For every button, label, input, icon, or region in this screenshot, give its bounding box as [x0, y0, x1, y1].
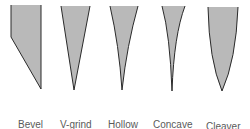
label-line1: Bevel	[18, 119, 43, 129]
label-line1: Hollow	[108, 119, 138, 129]
concave-grind-shape	[162, 6, 185, 91]
hollow-grind-label: Hollow grind	[108, 97, 138, 129]
label-line1: Concave	[153, 119, 192, 129]
label-line1: Cleaver	[206, 121, 240, 129]
bevel-grind-label: Bevel grind	[18, 97, 43, 129]
cleaver-grind-label: Cleaver grind	[206, 99, 240, 129]
bevel-grind-shape	[11, 5, 41, 89]
hollow-grind-shape	[110, 6, 138, 90]
v-grind-shape	[61, 6, 90, 90]
concave-grind-label: Concave grind	[153, 97, 192, 129]
v-grind-label: V-grind	[60, 97, 92, 129]
cleaver-grind-shape	[208, 7, 238, 91]
label-line1: V-grind	[60, 119, 92, 129]
